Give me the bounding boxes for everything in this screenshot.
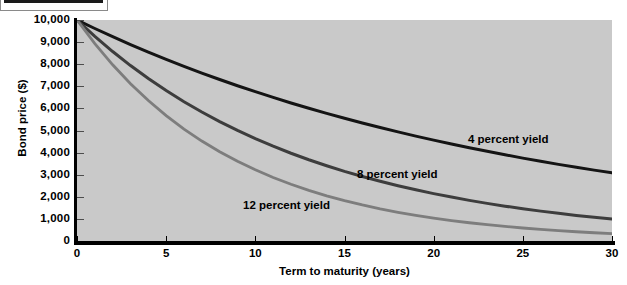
x-axis-tick [255, 236, 256, 242]
plot-area [77, 20, 612, 241]
y-axis-tick-label-text: 8,000 [4, 57, 70, 69]
y-axis-tick [77, 64, 84, 65]
y-axis-tick-label-text: 7,000 [4, 79, 70, 91]
curve-4-percent-yield [77, 20, 612, 173]
y-axis-tick-label: 8,000 [0, 57, 70, 71]
curves-svg [77, 20, 612, 241]
series-label-4-percent-yield: 4 percent yield [468, 133, 549, 145]
y-axis-tick-label-text: 5,000 [4, 124, 70, 136]
y-axis-tick-label-text: 4,000 [4, 146, 70, 158]
y-axis-tick-label-text: 1,000 [4, 212, 70, 224]
y-axis-tick-label: 3,000 [0, 168, 70, 182]
curve-12-percent-yield [77, 20, 612, 234]
y-axis-tick [77, 108, 84, 109]
y-axis-tick-label-text: 10,000 [4, 13, 70, 25]
series-label-12-percent-yield: 12 percent yield [243, 199, 330, 211]
y-axis-tick-label: 1,000 [0, 212, 70, 226]
y-axis-tick-label: 10,000 [0, 13, 70, 27]
x-axis-tick [345, 236, 346, 242]
y-axis-tick-label-text: 3,000 [4, 168, 70, 180]
y-axis-tick-label: 2,000 [0, 190, 70, 204]
x-axis-tick-label: 0 [57, 247, 97, 259]
y-axis-tick [77, 42, 84, 43]
x-axis-tick [523, 236, 524, 242]
y-axis-tick-label-text: 0 [4, 234, 70, 246]
x-axis-tick [166, 236, 167, 242]
x-axis-title: Term to maturity (years) [77, 265, 612, 277]
y-axis-tick-label: 6,000 [0, 101, 70, 115]
y-axis-tick-label-text: 9,000 [4, 35, 70, 47]
y-axis-tick [77, 20, 84, 21]
x-axis-tick [434, 236, 435, 242]
y-axis-tick-label: 9,000 [0, 35, 70, 49]
y-axis-tick-label: 7,000 [0, 79, 70, 93]
y-axis-tick-label: 4,000 [0, 146, 70, 160]
x-axis-tick-label: 25 [503, 247, 543, 259]
x-axis-tick-label: 30 [592, 247, 627, 259]
y-axis-tick [77, 131, 84, 132]
header-tab-fill [4, 0, 103, 3]
x-axis-tick-label: 10 [235, 247, 275, 259]
y-axis-tick-label: 0 [0, 234, 70, 248]
y-axis-tick-label-text: 2,000 [4, 190, 70, 202]
series-label-8-percent-yield: 8 percent yield [357, 168, 438, 180]
x-axis-tick [77, 236, 78, 242]
x-axis-tick [612, 236, 613, 242]
y-axis-tick-label: 5,000 [0, 124, 70, 138]
bond-price-chart-figure: Bond price ($) 01,0002,0003,0004,0005,00… [0, 0, 627, 285]
x-axis-tick-label: 5 [146, 247, 186, 259]
y-axis-tick [77, 153, 84, 154]
y-axis-tick-label-text: 6,000 [4, 101, 70, 113]
y-axis-tick [77, 219, 84, 220]
y-axis-tick [77, 175, 84, 176]
x-axis-tick-label: 20 [414, 247, 454, 259]
x-axis-tick-label: 15 [325, 247, 365, 259]
y-axis-tick [77, 197, 84, 198]
header-tab [0, 0, 108, 11]
y-axis-tick [77, 86, 84, 87]
y-axis-title: Bond price ($) [16, 58, 28, 178]
